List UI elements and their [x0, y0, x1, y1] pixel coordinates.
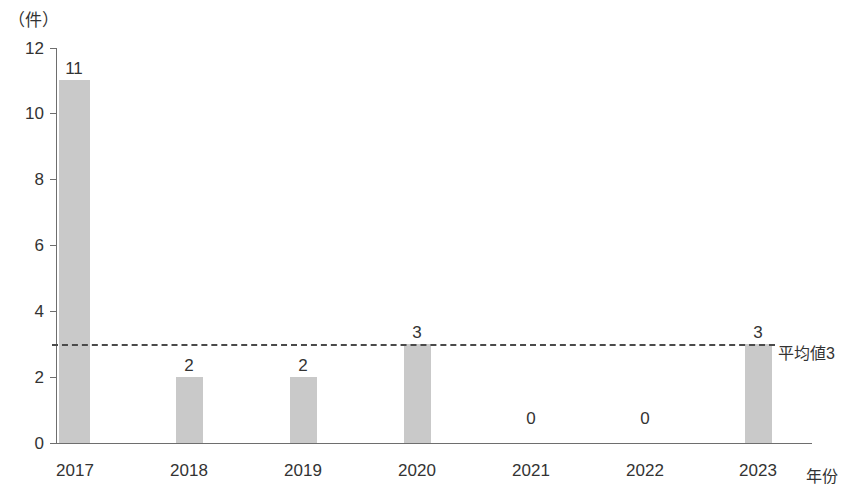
- bar-2023: [745, 344, 772, 443]
- bar-value-2022: 0: [615, 410, 675, 427]
- y-axis-line: [56, 48, 57, 444]
- x-axis-line: [56, 443, 812, 444]
- y-tick-10: [50, 113, 57, 114]
- y-tick-6: [50, 245, 57, 246]
- bar-2020: [404, 344, 431, 443]
- x-tick-label-2023: 2023: [723, 462, 793, 479]
- bar-2017: [59, 80, 90, 443]
- y-tick-label-4: 4: [4, 303, 44, 320]
- bar-value-2023: 3: [728, 324, 788, 341]
- x-tick-label-2018: 2018: [154, 462, 224, 479]
- y-tick-8: [50, 179, 57, 180]
- average-line: [52, 344, 775, 346]
- x-tick-label-2022: 2022: [610, 462, 680, 479]
- x-tick-label-2017: 2017: [40, 462, 110, 479]
- x-axis-title: 年份: [806, 463, 838, 487]
- y-tick-label-10: 10: [4, 105, 44, 122]
- y-tick-12: [50, 48, 57, 49]
- bar-chart: （件） 0 2 4 6 8 10 12 11 2 2 3 0 0 3: [0, 0, 854, 492]
- x-tick-label-2020: 2020: [382, 462, 452, 479]
- y-axis-unit-label: （件）: [8, 6, 59, 31]
- bar-value-2018: 2: [159, 357, 219, 374]
- bar-value-2021: 0: [501, 410, 561, 427]
- y-tick-label-8: 8: [4, 171, 44, 188]
- y-tick-label-6: 6: [4, 237, 44, 254]
- bar-value-2017: 11: [44, 60, 104, 77]
- x-tick-label-2019: 2019: [268, 462, 338, 479]
- y-tick-4: [50, 311, 57, 312]
- average-line-label: 平均値3: [778, 340, 835, 364]
- x-tick-label-2021: 2021: [496, 462, 566, 479]
- y-tick-label-2: 2: [4, 369, 44, 386]
- y-tick-label-12: 12: [4, 40, 44, 57]
- y-tick-2: [50, 377, 57, 378]
- bar-value-2020: 3: [387, 324, 447, 341]
- bar-value-2019: 2: [273, 357, 333, 374]
- y-tick-label-0: 0: [4, 435, 44, 452]
- bar-2019: [290, 377, 317, 443]
- bar-2018: [176, 377, 203, 443]
